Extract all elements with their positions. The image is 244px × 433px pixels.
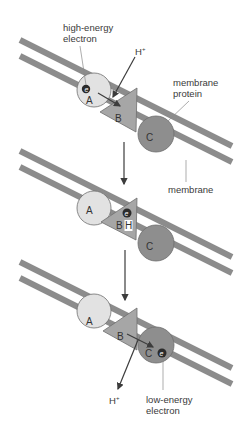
bound-proton-label: H xyxy=(125,220,132,231)
protein-c xyxy=(138,327,174,363)
svg-text:e: e xyxy=(85,86,89,93)
low-energy-electron-label-2: electron xyxy=(146,405,180,416)
electron-icon: e xyxy=(123,209,132,218)
protein-a-label: A xyxy=(86,316,93,327)
protein-c-label: C xyxy=(146,241,153,252)
panel-step-1: e A B C H+ high-energy electron membrane… xyxy=(20,22,232,162)
svg-text:e: e xyxy=(160,350,164,357)
electron-transport-diagram: e A B C H+ high-energy electron membrane… xyxy=(0,0,244,433)
svg-text:e: e xyxy=(125,210,129,217)
proton-label: H+ xyxy=(109,395,120,406)
protein-a xyxy=(77,294,111,328)
membrane-label: membrane xyxy=(168,184,213,195)
panel-step-2: A e B H C membrane xyxy=(20,151,232,273)
protein-c xyxy=(138,116,174,152)
protein-a-label: A xyxy=(86,205,93,216)
high-energy-electron-label: high-energy xyxy=(63,22,113,33)
high-energy-electron-icon: e xyxy=(82,85,90,93)
low-energy-electron-icon: e xyxy=(158,349,167,358)
protein-b-label: B xyxy=(115,113,122,124)
proton-release-arrow xyxy=(118,340,138,389)
protein-c xyxy=(138,225,174,261)
membrane-protein-label: membrane xyxy=(173,77,218,88)
panel-step-3: A B C e H+ low-energy electron xyxy=(20,262,232,416)
membrane-protein-label-2: protein xyxy=(173,88,202,99)
protein-b-label: B xyxy=(116,220,123,231)
high-energy-electron-label-2: electron xyxy=(63,33,97,44)
protein-a-label: A xyxy=(86,95,93,106)
protein-b-label: B xyxy=(117,331,124,342)
proton-label: H+ xyxy=(135,46,146,57)
low-energy-electron-label: low-energy xyxy=(146,394,193,405)
protein-c-label: C xyxy=(145,348,152,359)
protein-c-label: C xyxy=(146,132,153,143)
